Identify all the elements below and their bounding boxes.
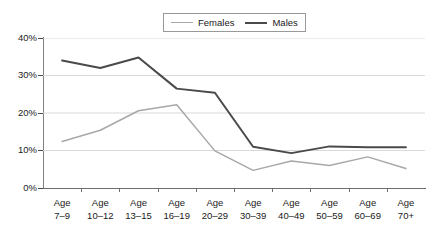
x-label-line2: 60–69 (349, 209, 387, 222)
y-axis-label-40: 40% (3, 33, 37, 43)
x-label-line2: 50–59 (310, 209, 348, 222)
legend-line-swatch-females (171, 22, 193, 23)
x-label-line1: Age (119, 196, 157, 209)
line-chart: Females Males 40% 30% 20% 10% 0% Age 7–9 (0, 0, 446, 234)
x-label-line1: Age (158, 196, 196, 209)
y-axis-label-20: 20% (3, 108, 37, 118)
legend-label-males: Males (272, 18, 297, 28)
chart-legend: Females Males (163, 13, 306, 32)
x-axis-label-7: Age 50–59 (310, 196, 348, 232)
series-lines (62, 58, 406, 171)
x-tick-7 (310, 188, 311, 192)
x-tick-1 (81, 188, 82, 192)
x-label-line2: 40–49 (272, 209, 310, 222)
x-label-line1: Age (81, 196, 119, 209)
x-tick-3 (158, 188, 159, 192)
plot-svg (43, 38, 425, 188)
x-tick-9 (387, 188, 388, 192)
x-label-line2: 20–29 (196, 209, 234, 222)
x-axis-label-4: Age 20–29 (196, 196, 234, 232)
x-axis-label-5: Age 30–39 (234, 196, 272, 232)
x-label-line1: Age (310, 196, 348, 209)
y-axis-labels: 40% 30% 20% 10% 0% (0, 0, 37, 234)
x-label-line1: Age (196, 196, 234, 209)
x-tick-5 (234, 188, 235, 192)
legend-line-swatch-males (245, 22, 267, 24)
legend-item-females[interactable]: Females (171, 18, 234, 28)
x-axis-label-2: Age 13–15 (119, 196, 157, 232)
series-line-females (62, 105, 406, 171)
x-tick-4 (196, 188, 197, 192)
x-label-line1: Age (387, 196, 425, 209)
x-label-line1: Age (43, 196, 81, 209)
x-axis-label-8: Age 60–69 (349, 196, 387, 232)
legend-label-females: Females (198, 18, 234, 28)
x-label-line2: 70+ (387, 209, 425, 222)
x-label-line2: 13–15 (119, 209, 157, 222)
y-axis-label-30: 30% (3, 70, 37, 80)
x-axis-label-1: Age 10–12 (81, 196, 119, 232)
plot-area (43, 38, 425, 188)
x-label-line2: 16–19 (158, 209, 196, 222)
x-tick-2 (119, 188, 120, 192)
x-label-line2: 30–39 (234, 209, 272, 222)
x-axis-labels: Age 7–9 Age 10–12 Age 13–15 Age 16–19 Ag… (43, 196, 425, 232)
x-tick-6 (272, 188, 273, 192)
x-axis-label-6: Age 40–49 (272, 196, 310, 232)
x-label-line1: Age (272, 196, 310, 209)
y-axis-label-10: 10% (3, 145, 37, 155)
y-axis-label-0: 0% (3, 183, 37, 193)
x-tick-8 (349, 188, 350, 192)
x-axis-label-9: Age 70+ (387, 196, 425, 232)
x-axis-label-0: Age 7–9 (43, 196, 81, 232)
gridlines (43, 38, 425, 188)
x-label-line1: Age (234, 196, 272, 209)
x-label-line1: Age (349, 196, 387, 209)
legend-item-males[interactable]: Males (245, 18, 297, 28)
series-line-males (62, 58, 406, 154)
x-label-line2: 7–9 (43, 209, 81, 222)
x-label-line2: 10–12 (81, 209, 119, 222)
x-axis-label-3: Age 16–19 (158, 196, 196, 232)
